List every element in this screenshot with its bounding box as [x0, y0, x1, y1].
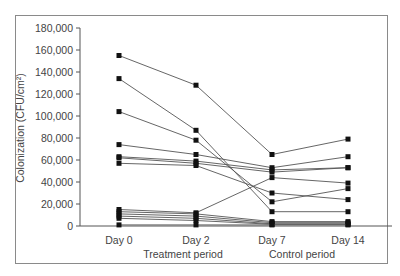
data-point-marker [346, 181, 351, 186]
data-point-marker [194, 222, 199, 227]
y-tick-label: 120,000 [35, 88, 73, 100]
data-point-marker [194, 218, 199, 223]
data-point-marker [270, 199, 275, 204]
y-tick-label: 60,000 [41, 154, 73, 166]
series-line [119, 112, 348, 202]
data-point-marker [346, 137, 351, 142]
y-tick-label: 0 [67, 220, 73, 232]
data-point-marker [117, 222, 122, 227]
data-point-marker [117, 161, 122, 166]
data-point-marker [194, 138, 199, 143]
data-point-marker [270, 175, 275, 180]
data-point-marker [270, 152, 275, 157]
series-line [119, 56, 348, 155]
data-point-marker [194, 83, 199, 88]
data-point-marker [194, 163, 199, 168]
y-tick-label: 80,000 [41, 132, 73, 144]
y-tick-label: 40,000 [41, 176, 73, 188]
data-point-marker [346, 186, 351, 191]
data-point-marker [270, 170, 275, 175]
y-axis-label: Colonization (CFU/cm²) [14, 73, 26, 183]
data-point-marker [117, 216, 122, 221]
data-point-marker [346, 165, 351, 170]
series-line [119, 178, 348, 213]
y-tick-label: 180,000 [35, 22, 73, 34]
data-point-marker [117, 53, 122, 58]
y-tick-label: 160,000 [35, 44, 73, 56]
y-tick-label: 20,000 [41, 198, 73, 210]
data-point-marker [117, 142, 122, 147]
x-tick-label: Day 7 [258, 234, 286, 246]
data-point-marker [117, 76, 122, 81]
line-chart: 020,00040,00060,00080,000100,000120,0001… [0, 0, 400, 276]
y-tick-label: 100,000 [35, 110, 73, 122]
x-tick-label: Day 0 [105, 234, 133, 246]
data-point-marker [346, 197, 351, 202]
x-tick-label: Day 14 [331, 234, 364, 246]
data-point-marker [346, 154, 351, 159]
data-point-marker [270, 222, 275, 227]
data-point-marker [270, 191, 275, 196]
control-period-label: Control period [269, 248, 335, 260]
data-point-marker [117, 109, 122, 114]
data-point-marker [194, 152, 199, 157]
treatment-period-label: Treatment period [143, 248, 223, 260]
y-tick-label: 140,000 [35, 66, 73, 78]
data-point-marker [194, 128, 199, 133]
x-tick-label: Day 2 [182, 234, 210, 246]
series-line [119, 79, 348, 212]
data-point-marker [117, 155, 122, 160]
data-point-marker [346, 209, 351, 214]
data-point-marker [270, 209, 275, 214]
data-point-marker [346, 222, 351, 227]
